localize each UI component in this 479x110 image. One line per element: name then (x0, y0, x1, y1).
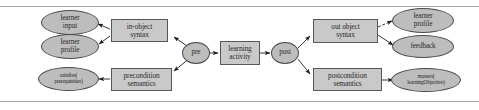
node-feedback[interactable]: feedback (392, 35, 454, 58)
node-learner-profile-left-line2: profile (61, 47, 79, 54)
node-post-label: post (279, 49, 291, 56)
node-feedback-label: feedback (410, 43, 435, 50)
node-out-object-syntax-line2: syntax (336, 31, 355, 39)
node-postcondition-semantics[interactable]: postcondition semantics (313, 68, 382, 91)
node-pre[interactable]: pre (182, 42, 210, 64)
node-in-object-syntax[interactable]: in-object syntax (111, 19, 168, 42)
node-in-object-syntax-line2: syntax (130, 31, 149, 39)
node-postcondition-semantics-line2: semantics (333, 80, 361, 88)
node-learner-input[interactable]: learner input (41, 10, 99, 35)
diagram-figure: learner input learner profile satisfies(… (0, 0, 479, 110)
node-masters-learning-objective[interactable]: masters( learningObjective) (391, 68, 461, 92)
node-precondition-semantics[interactable]: precondition semantics (111, 68, 172, 91)
node-learner-input-line2: input (63, 23, 77, 30)
node-learner-profile-right[interactable]: learner profile (392, 8, 454, 33)
node-learning-activity[interactable]: learning activity (220, 41, 260, 65)
node-masters-learning-objective-line2: learningObjective) (407, 80, 444, 86)
node-satisfies-prerequisities[interactable]: satisfies( prerequisities) (38, 67, 99, 91)
node-pre-label: pre (192, 49, 201, 56)
node-precondition-semantics-line2: semantics (127, 80, 155, 88)
node-out-object-syntax[interactable]: out object syntax (313, 19, 378, 43)
node-satisfies-prerequisities-line2: prerequisities) (54, 79, 82, 85)
node-learner-profile-left[interactable]: learner profile (41, 34, 99, 59)
node-learner-profile-right-line2: profile (414, 21, 432, 28)
node-post[interactable]: post (271, 42, 299, 64)
node-learning-activity-line2: activity (229, 53, 250, 61)
